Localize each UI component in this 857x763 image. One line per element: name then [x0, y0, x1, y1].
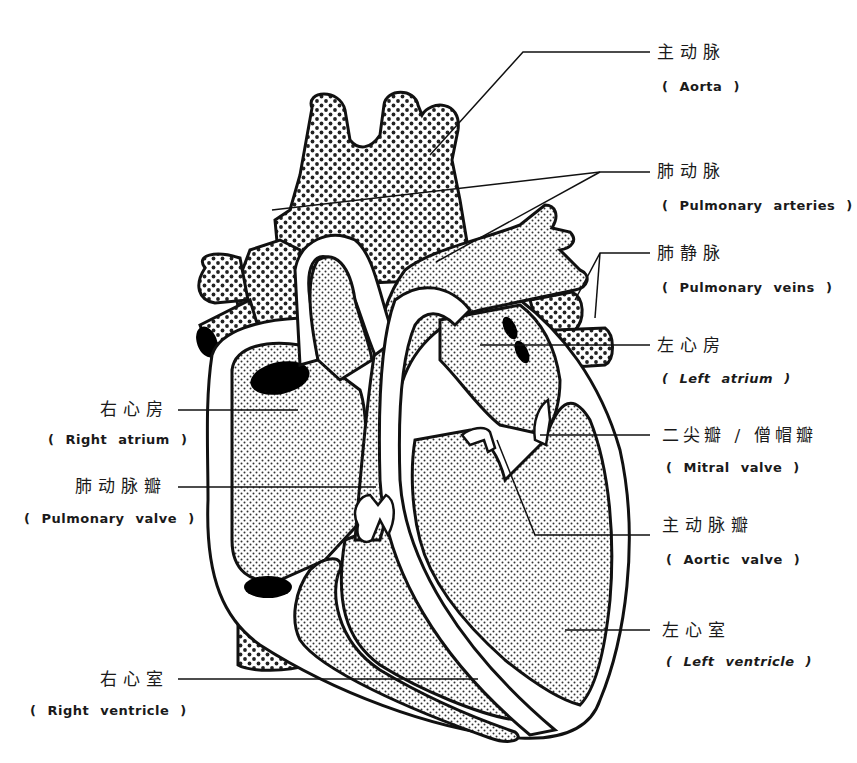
label-right-ventricle-zh: 右心室	[100, 671, 169, 688]
label-pulmonary-veins-en: ( Pulmonary veins )	[662, 281, 832, 294]
label-aorta-en: ( Aorta )	[662, 80, 740, 93]
label-left-atrium-zh: 左心房	[657, 337, 726, 354]
ivc-opening	[244, 576, 292, 598]
label-right-ventricle-en: ( Right ventricle )	[30, 704, 187, 717]
leader-pulmonary-veins-b	[595, 253, 600, 318]
label-left-ventricle-en: ( Left ventricle )	[666, 655, 812, 668]
label-right-atrium-en: ( Right atrium )	[48, 433, 187, 446]
label-pulmonary-valve-en: ( Pulmonary valve )	[24, 512, 195, 525]
leader-aorta	[430, 52, 650, 155]
label-pulmonary-veins-zh: 肺静脉	[657, 245, 726, 262]
label-pulmonary-valve-zh: 肺动脉瓣	[75, 478, 167, 495]
label-mitral-valve-en: ( Mitral valve )	[666, 461, 800, 474]
label-mitral-valve-zh: 二尖瓣 / 僧帽瓣	[662, 427, 817, 444]
left-branch-vessel	[199, 254, 248, 303]
label-aortic-valve-zh: 主动脉瓣	[662, 517, 754, 534]
pulmonary-valve-leaflet	[355, 495, 394, 542]
label-pulmonary-arteries-en: ( Pulmonary arteries )	[662, 199, 853, 212]
label-aortic-valve-en: ( Aortic valve )	[666, 553, 800, 566]
label-aorta-zh: 主动脉	[657, 44, 726, 61]
label-pulmonary-arteries-zh: 肺动脉	[657, 163, 726, 180]
label-right-atrium-zh: 右心房	[100, 401, 169, 418]
label-left-ventricle-zh: 左心室	[662, 622, 731, 639]
label-left-atrium-en: ( Left atrium )	[662, 372, 791, 385]
